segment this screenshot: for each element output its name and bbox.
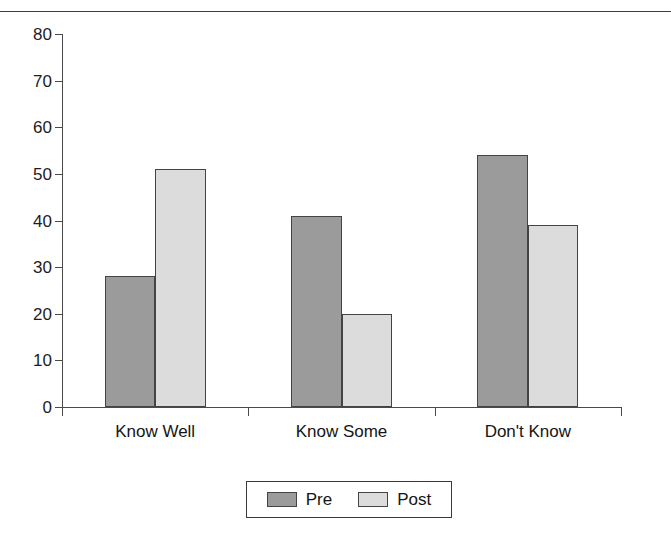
legend-label: Pre — [306, 491, 332, 508]
legend-entry-post: Post — [358, 491, 431, 508]
x-axis-line — [62, 407, 621, 408]
bar-pre-don-t-know — [477, 155, 528, 407]
x-axis-boundary-tick — [621, 407, 622, 416]
bar-post-know-well — [155, 169, 206, 407]
y-axis-tick-label: 20 — [33, 305, 52, 322]
bar-pre-know-some — [291, 216, 342, 407]
y-axis-tick-label: 10 — [33, 352, 52, 369]
y-tick-mark — [55, 360, 62, 361]
y-tick-mark — [55, 221, 62, 222]
legend-label: Post — [397, 491, 431, 508]
y-tick-mark — [55, 267, 62, 268]
category-label-know-some: Know Some — [296, 423, 388, 440]
category-label-know-well: Know Well — [115, 423, 195, 440]
y-axis-tick-label: 80 — [33, 26, 52, 43]
x-axis-boundary-tick — [62, 407, 63, 416]
top-divider-rule — [0, 11, 671, 12]
plot-area: 01020304050607080 Know WellKnow SomeDon'… — [62, 34, 621, 407]
legend-entry-pre: Pre — [267, 491, 332, 508]
y-axis-tick-label: 30 — [33, 259, 52, 276]
y-axis-tick-label: 40 — [33, 212, 52, 229]
category-label-don-t-know: Don't Know — [485, 423, 571, 440]
y-axis-tick-label: 60 — [33, 119, 52, 136]
post-swatch-icon — [358, 492, 388, 507]
y-axis-line — [62, 34, 63, 407]
y-tick-mark — [55, 34, 62, 35]
y-axis-tick-label: 50 — [33, 165, 52, 182]
y-axis-tick-label: 0 — [43, 399, 52, 416]
y-tick-mark — [55, 127, 62, 128]
y-axis-tick-label: 70 — [33, 72, 52, 89]
y-tick-mark — [55, 81, 62, 82]
x-axis-boundary-tick — [248, 407, 249, 416]
y-tick-mark — [55, 174, 62, 175]
bar-post-know-some — [342, 314, 393, 407]
y-tick-mark — [55, 314, 62, 315]
chart-page: 01020304050607080 Know WellKnow SomeDon'… — [0, 0, 671, 541]
x-axis-boundary-tick — [435, 407, 436, 416]
bar-pre-know-well — [105, 276, 156, 407]
clipped-caption-text — [0, 0, 671, 10]
chart-legend: PrePost — [246, 481, 452, 518]
y-tick-mark — [55, 407, 62, 408]
bar-post-don-t-know — [528, 225, 579, 407]
pre-swatch-icon — [267, 492, 297, 507]
